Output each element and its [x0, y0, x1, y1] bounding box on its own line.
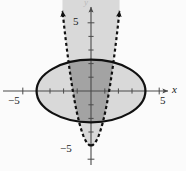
- graph-figure: x y −5 5 5 −5: [0, 0, 186, 171]
- y-axis-label: y: [84, 0, 88, 7]
- y-tick-label-pos5: 5: [73, 16, 79, 27]
- x-tick-label-pos5: 5: [160, 95, 166, 106]
- coordinate-plot: [0, 0, 186, 171]
- x-axis-label: x: [172, 84, 177, 95]
- y-tick-label-neg5: −5: [60, 143, 72, 154]
- x-tick-label-neg5: −5: [8, 95, 20, 106]
